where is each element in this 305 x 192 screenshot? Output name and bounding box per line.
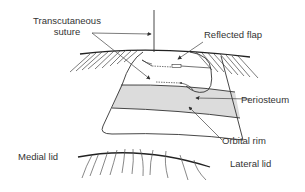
label-periosteum: Periosteum xyxy=(241,94,289,105)
eyelid xyxy=(78,149,210,180)
skin-surface xyxy=(70,50,258,78)
label-orbital-rim: Orbital rim xyxy=(222,135,266,146)
label-reflected-flap: Reflected flap xyxy=(204,29,262,40)
label-transcutaneous-line1: Transcutaneous xyxy=(27,15,107,26)
label-transcutaneous-line2: suture xyxy=(27,26,107,37)
label-transcutaneous-suture: Transcutaneous suture xyxy=(27,15,107,37)
label-lateral-lid: Lateral lid xyxy=(230,158,271,169)
label-medial-lid: Medial lid xyxy=(18,151,58,162)
